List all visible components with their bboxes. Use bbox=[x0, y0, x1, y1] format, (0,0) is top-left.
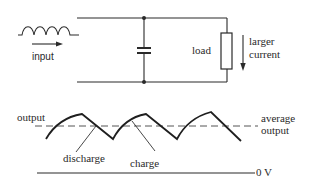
average-label-line1: average bbox=[261, 112, 295, 124]
larger-current-label-line1: larger bbox=[249, 35, 275, 47]
circuit: input load larger current bbox=[18, 16, 280, 84]
charge-label: charge bbox=[130, 157, 159, 169]
input-label: input bbox=[32, 51, 54, 62]
output-label: output bbox=[17, 111, 45, 123]
capacitor-icon bbox=[137, 18, 151, 82]
zero-volt-label: 0 V bbox=[256, 166, 272, 178]
larger-current-label-line2: current bbox=[249, 48, 280, 60]
discharge-label: discharge bbox=[63, 152, 105, 164]
input-direction-arrow-icon bbox=[32, 42, 63, 47]
average-label-line2: output bbox=[261, 124, 289, 136]
current-direction-arrow-icon bbox=[240, 35, 245, 71]
load-label: load bbox=[192, 44, 211, 56]
discharge-leader-line bbox=[76, 126, 96, 152]
smoothing-circuit-diagram: input load larger current output bbox=[0, 0, 311, 186]
rectified-input-wave-icon bbox=[18, 27, 79, 35]
load-resistor-icon bbox=[221, 18, 232, 82]
output-waveform: output average output discharge charge 0… bbox=[17, 111, 295, 178]
